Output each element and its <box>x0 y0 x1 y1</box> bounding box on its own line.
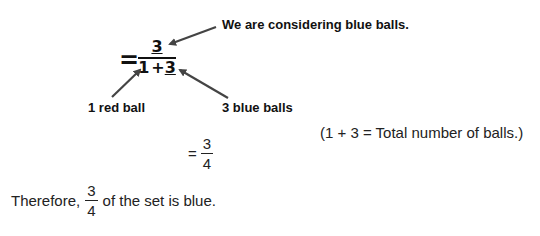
result-equals: = <box>188 145 197 162</box>
result-equation: = 3 4 <box>188 136 213 171</box>
conclusion-prefix: Therefore, <box>11 192 80 209</box>
label-red-ball: 1 red ball <box>88 100 145 115</box>
result-fraction: 3 4 <box>201 136 213 171</box>
arrow-to-red-count <box>112 70 140 97</box>
arrow-to-numerator <box>170 27 216 44</box>
label-considering-blue: We are considering blue balls. <box>222 17 409 32</box>
arrow-to-blue-count <box>180 70 228 98</box>
total-note: (1 + 3 = Total number of balls.) <box>320 124 523 141</box>
label-blue-balls: 3 blue balls <box>222 100 293 115</box>
handwritten-equals: = <box>119 46 139 74</box>
handwritten-denominator: 1+3 <box>138 59 176 77</box>
conclusion-suffix: of the set is blue. <box>103 192 216 209</box>
handwritten-numerator: 3 <box>138 38 176 56</box>
conclusion-fraction: 3 4 <box>85 183 97 218</box>
handwritten-fraction: 3 1+3 <box>138 38 176 77</box>
conclusion-sentence: Therefore, 3 4 of the set is blue. <box>11 183 216 218</box>
